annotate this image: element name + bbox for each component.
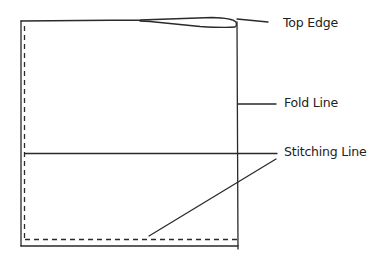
stitching-diagonal-leader xyxy=(149,159,276,236)
label-stitching-line: Stitching Line xyxy=(284,146,367,159)
label-fold-line: Fold Line xyxy=(284,97,338,110)
label-top-edge: Top Edge xyxy=(283,17,338,30)
top-edge-leader xyxy=(237,19,268,22)
top-edge-line xyxy=(21,18,236,28)
fold-diagram xyxy=(0,0,386,262)
fold-edge xyxy=(237,22,238,249)
